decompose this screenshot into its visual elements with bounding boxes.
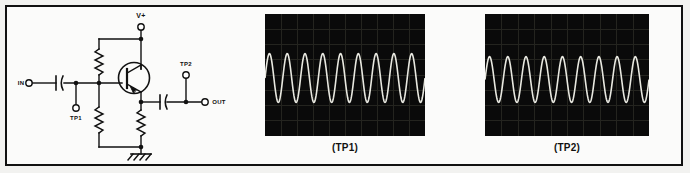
junction-base [97,81,102,86]
ground-hatch-2 [134,154,139,160]
schematic-svg: V+ IN OUT TP1 TP2 [8,7,253,164]
junction-supply [139,37,144,42]
ground-hatch-1 [128,154,133,160]
testpoint1-terminal [73,105,79,111]
input-label: IN [18,80,25,86]
waveform-svg-tp1 [265,14,425,136]
input-capacitor-plate-right [61,76,63,90]
output-terminal [202,99,208,105]
oscilloscope-screen-tp2 [485,14,649,136]
output-label: OUT [212,99,226,105]
waveform-svg-tp2 [485,14,649,136]
emitter-resistor [137,110,145,136]
scope-caption-tp1: (TP1) [265,142,425,153]
junction-testpoint1 [74,81,79,86]
supply-terminal [138,24,144,30]
testpoint2-terminal [183,72,189,78]
collector-resistor [95,49,103,75]
junction-emitter [139,100,144,105]
scope-caption-tp2: (TP2) [485,142,649,153]
input-terminal [26,80,32,86]
supply-label: V+ [136,12,145,19]
junction-ground [139,145,144,150]
transistor-collector-lead [127,65,141,73]
figure-root: V+ IN OUT TP1 TP2 [0,0,690,173]
ground-hatch-3 [140,154,145,160]
waveform-trace-tp2 [485,57,649,103]
testpoint2-label: TP2 [180,61,192,67]
oscilloscope-screen-tp1 [265,14,425,136]
testpoint1-label: TP1 [70,115,82,121]
waveform-trace-tp1 [265,54,425,103]
base-bias-resistor [95,107,103,133]
ground-hatch-4 [146,154,151,160]
junction-testpoint2 [184,100,189,105]
schematic-diagram: V+ IN OUT TP1 TP2 [8,7,253,164]
